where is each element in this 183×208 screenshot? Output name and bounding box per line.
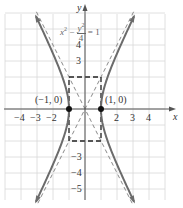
y-axis-label: y	[77, 3, 81, 13]
x-tick-label: 3	[130, 113, 135, 123]
x-tick-label: 4	[146, 113, 151, 123]
vertex-point	[98, 106, 104, 112]
y-tick-label: −3	[71, 152, 82, 162]
eq-equals: = 1	[88, 27, 100, 37]
vertex-label: (1, 0)	[105, 95, 127, 105]
x-axis-label: x	[173, 112, 177, 122]
vertex-point	[66, 106, 72, 112]
eq-x-exp: 2	[64, 26, 67, 32]
x-tick-label: −4	[14, 113, 25, 123]
eq-minus: −	[69, 27, 74, 37]
x-tick-label: 2	[114, 113, 119, 123]
x-tick-label: −2	[46, 113, 57, 123]
eq-y-exp: 2	[82, 22, 85, 28]
x-tick-label: −3	[30, 113, 41, 123]
y-tick-label: −4	[71, 168, 82, 178]
y-tick-label: 4	[76, 40, 81, 50]
y-tick-label: 3	[76, 56, 81, 66]
y-axis-arrow-icon	[83, 4, 88, 11]
vertex-label: (−1, 0)	[35, 95, 62, 105]
y-tick-label: −5	[71, 184, 82, 194]
